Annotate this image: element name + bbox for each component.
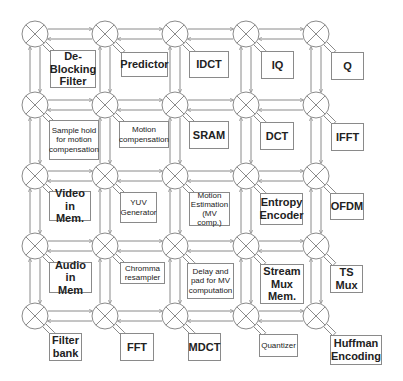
core-block-filter-bank: Filter bank <box>49 333 82 361</box>
core-label: Quantizer <box>261 341 296 350</box>
core-label: De- Blocking Filter <box>50 50 96 88</box>
core-label: Stream Mux Mem. <box>263 265 300 303</box>
core-label: Audio in Mem <box>50 259 91 297</box>
core-block-q: Q <box>331 52 364 80</box>
crossbar-router-icon <box>92 163 118 189</box>
core-block-audio-in-mem: Audio in Mem <box>49 262 92 293</box>
crossbar-router-icon <box>233 21 259 47</box>
core-label: SRAM <box>193 129 225 142</box>
core-label: MDCT <box>189 341 221 354</box>
core-block-iq: IQ <box>261 51 294 79</box>
core-block-dct: DCT <box>260 122 294 150</box>
crossbar-router-icon <box>162 303 188 329</box>
core-label: FFT <box>127 341 147 354</box>
core-block-predictor: Predictor <box>121 52 168 77</box>
core-label: OFDM <box>331 200 363 213</box>
crossbar-router-icon <box>233 92 259 118</box>
core-label: DCT <box>266 130 289 143</box>
crossbar-router-icon <box>92 21 118 47</box>
crossbar-router-icon <box>233 303 259 329</box>
crossbar-router-icon <box>303 163 329 189</box>
core-block-sample-hold-for-motion-compensation: Sample hold for motion compensation <box>49 120 99 160</box>
core-label: Q <box>343 60 352 73</box>
core-label: Delay and pad for MV computation <box>189 267 233 295</box>
crossbar-router-icon <box>303 92 329 118</box>
core-label: Sample hold for motion compensation <box>49 126 99 154</box>
crossbar-router-icon <box>22 163 48 189</box>
core-block-de-blocking-filter: De- Blocking Filter <box>50 50 96 88</box>
core-block-fft: FFT <box>120 333 154 361</box>
core-label: TS Mux <box>336 266 358 291</box>
core-label: Video in Mem. <box>50 187 90 225</box>
core-label: Chromma resampler <box>125 264 161 282</box>
crossbar-router-icon <box>22 303 48 329</box>
crossbar-router-icon <box>92 92 118 118</box>
crossbar-router-icon <box>303 233 329 259</box>
crossbar-router-icon <box>22 92 48 118</box>
core-label: IDCT <box>196 58 222 71</box>
crossbar-router-icon <box>22 233 48 259</box>
core-block-ts-mux: TS Mux <box>330 265 363 293</box>
crossbar-router-icon <box>92 303 118 329</box>
crossbar-router-icon <box>303 21 329 47</box>
core-block-mdct: MDCT <box>188 333 221 361</box>
core-block-sram: SRAM <box>189 121 229 149</box>
crossbar-router-icon <box>92 233 118 259</box>
core-block-chromma-resampler: Chromma resampler <box>120 262 165 284</box>
crossbar-router-icon <box>162 163 188 189</box>
core-block-ifft: IFFT <box>331 123 364 151</box>
core-block-motion-compensation: Motion compensation <box>119 121 169 148</box>
crossbar-router-icon <box>233 233 259 259</box>
core-block-delay-and-pad-for-mv-computation: Delay and pad for MV computation <box>187 263 234 299</box>
core-label: IFFT <box>336 131 359 144</box>
core-label: YUV Generator <box>120 198 156 216</box>
crossbar-router-icon <box>162 21 188 47</box>
core-label: Predictor <box>120 58 168 71</box>
crossbar-router-icon <box>22 21 48 47</box>
core-block-motion-estimation-mv-comp: Motion Estimation (MV comp.) <box>189 192 230 226</box>
core-label: IQ <box>272 59 284 72</box>
core-block-stream-mux-mem: Stream Mux Mem. <box>260 264 304 304</box>
core-block-idct: IDCT <box>189 51 229 78</box>
core-block-ofdm: OFDM <box>330 193 364 220</box>
crossbar-router-icon <box>162 233 188 259</box>
core-label: Filter bank <box>52 334 79 359</box>
core-label: Motion compensation <box>119 125 169 143</box>
crossbar-router-icon <box>233 163 259 189</box>
core-block-entropy-encoder: Entropy Encoder <box>260 193 303 225</box>
core-label: Motion Estimation (MV comp.) <box>190 191 229 228</box>
crossbar-router-icon <box>303 303 329 329</box>
core-block-video-in-mem: Video in Mem. <box>49 191 91 221</box>
core-block-quantizer: Quantizer <box>259 334 298 357</box>
core-block-yuv-generator: YUV Generator <box>120 192 157 223</box>
core-block-huffman-encoding: Huffman Encoding <box>330 335 382 365</box>
crossbar-router-icon <box>162 92 188 118</box>
core-label: Huffman Encoding <box>331 337 381 362</box>
core-label: Entropy Encoder <box>260 196 304 221</box>
